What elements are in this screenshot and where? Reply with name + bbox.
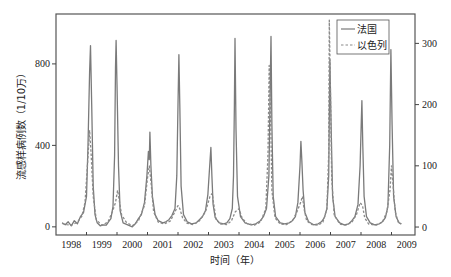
y-tick-label-right: 300 xyxy=(422,38,437,49)
x-tick-label: 2009 xyxy=(397,239,417,250)
y-tick-label-right: 100 xyxy=(422,160,437,171)
x-tick-label: 2005 xyxy=(275,239,295,250)
x-axis-title: 时间（年） xyxy=(210,254,260,266)
x-tick-label: 1999 xyxy=(92,239,112,250)
series-line-france xyxy=(62,36,401,227)
x-tick-label: 2000 xyxy=(122,239,142,250)
chart: 1998199920002001200220032004200520062007… xyxy=(0,0,451,277)
y-tick-label-left: 0 xyxy=(45,221,50,232)
x-tick-label: 2002 xyxy=(183,239,203,250)
x-tick-label: 2008 xyxy=(366,239,386,250)
x-tick-label: 1998 xyxy=(61,239,81,250)
y-axis-title-left: 流感样病例数（1/10万） xyxy=(15,68,27,180)
x-tick-label: 2004 xyxy=(244,239,264,250)
y-tick-label-right: 200 xyxy=(422,99,437,110)
x-tick-label: 2006 xyxy=(305,239,325,250)
y-tick-label-left: 800 xyxy=(35,58,50,69)
legend: 法国 以色列 xyxy=(337,20,389,54)
legend-label-france: 法国 xyxy=(357,23,377,35)
y-tick-label-right: 0 xyxy=(422,222,427,233)
x-tick-label: 2007 xyxy=(336,239,356,250)
x-tick-label: 2001 xyxy=(153,239,173,250)
y-tick-label-left: 400 xyxy=(35,140,50,151)
y-axis-right: 0100200300 xyxy=(415,38,437,233)
x-tick-label: 2003 xyxy=(214,239,234,250)
legend-label-israel: 以色列 xyxy=(357,39,387,51)
y-axis-left: 0400800 xyxy=(35,58,56,232)
